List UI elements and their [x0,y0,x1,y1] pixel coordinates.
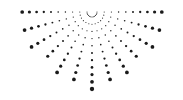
dot [110,30,111,31]
dot [91,31,92,32]
ray-120 [55,16,90,74]
ray-135 [46,15,89,58]
dot [30,27,33,30]
dot [30,45,34,49]
dot [83,20,84,21]
dot [80,51,82,53]
dot [114,25,115,26]
dot [72,78,76,82]
dot [115,53,117,55]
dot [107,71,110,74]
ray-30 [96,14,154,49]
dot [96,11,97,12]
dot [127,32,129,34]
dot [78,34,79,35]
dot [86,30,87,31]
dot [90,87,94,91]
ray-105 [72,16,91,81]
dot [82,28,83,29]
dot [90,16,91,17]
dot [81,18,82,19]
dot [94,16,95,17]
dot [68,25,69,26]
dot [146,11,149,14]
dot [23,28,27,32]
dot [104,11,105,12]
dot [105,25,106,26]
dot [90,80,94,84]
dot [80,15,81,16]
dot [28,10,31,13]
dot [91,24,92,25]
dot [91,52,93,54]
dot [135,55,138,58]
dot [36,42,39,45]
dot [130,50,133,53]
dot [95,15,96,16]
dot [44,23,46,25]
dot [74,40,76,42]
ray-90 [90,16,94,91]
ray-180 [20,10,87,14]
dot [88,23,89,24]
dot [96,14,97,15]
dot [91,59,93,61]
dot [151,45,155,49]
dot [59,20,61,22]
dot [105,64,108,67]
dot [100,44,102,46]
dot [43,38,46,41]
dot [98,37,99,38]
dot [120,28,122,30]
dot [100,20,101,21]
dot [88,15,89,16]
dot [124,20,126,22]
ray-165 [23,13,88,32]
dot [96,13,97,14]
dot [91,38,92,39]
dot [20,10,24,14]
dot [120,40,122,42]
dot [63,59,66,62]
dot [50,11,52,13]
dot [108,21,109,22]
dot [118,59,121,62]
dot [118,11,119,12]
dot [67,53,69,55]
dot [117,18,118,19]
dotted-sunburst-graphic [0,0,183,100]
ray-60 [94,16,129,74]
dot [91,16,92,17]
dot [101,28,102,29]
dot [74,71,77,74]
dot [82,44,84,46]
dot [84,37,85,38]
dot [139,38,142,41]
dot [78,57,80,59]
dot [158,28,162,32]
dot [108,78,112,82]
dot [160,10,164,14]
dot [37,25,40,28]
dot [35,11,38,14]
dot [79,11,80,12]
dot [89,16,90,17]
dot [66,18,67,19]
dot [139,11,141,13]
dot [73,16,74,17]
ray-150 [30,14,88,49]
dot [115,35,117,37]
dot [91,66,94,69]
dot [93,16,94,17]
dot [86,11,87,12]
dot [132,11,134,13]
dot [85,22,86,23]
dot [67,35,69,37]
dot [91,45,93,47]
dot [137,23,139,25]
dot [43,11,45,13]
dot [95,23,96,24]
dot [122,65,125,68]
dot [71,47,73,49]
dot [151,27,154,30]
